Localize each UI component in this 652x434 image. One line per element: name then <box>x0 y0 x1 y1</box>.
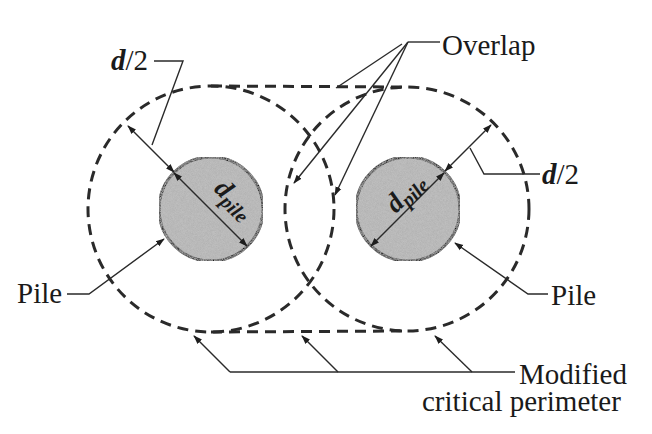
d-half-arrow-left <box>128 126 174 172</box>
pile-leader-right <box>455 243 548 294</box>
perimeter-arrow-3 <box>435 336 472 372</box>
pile-label-left: Pile <box>17 277 62 309</box>
d-half-label-right: d/2 <box>542 158 579 190</box>
perimeter-tangent-top <box>211 86 407 87</box>
perimeter-tangent-bottom <box>211 331 407 332</box>
overlap-label: Overlap <box>442 29 535 61</box>
perimeter-label-line2: critical perimeter <box>422 385 621 417</box>
d-half-label-left: d/2 <box>111 44 148 76</box>
overlap-arrow-3 <box>336 44 402 88</box>
pile-label-right: Pile <box>551 279 596 311</box>
modified-critical-perimeter <box>88 86 529 332</box>
d-half-leader-left <box>152 61 183 145</box>
perimeter-arrow-1 <box>194 336 230 372</box>
pile-leader-left <box>67 239 164 294</box>
d-half-leader-right <box>470 148 540 174</box>
pile-perimeter-diagram: dpile dpile d/2 d/2 Overlap Pile Pile Mo… <box>0 0 652 434</box>
perimeter-arrow-2 <box>302 336 338 372</box>
d-half-arrow-right <box>445 125 491 171</box>
